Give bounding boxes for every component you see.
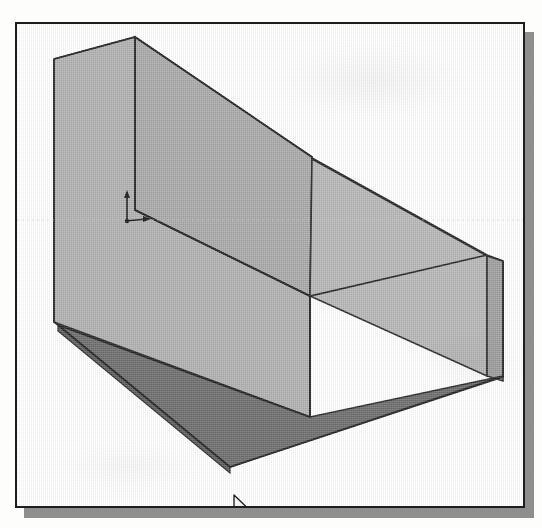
y-axis-arrow-icon <box>124 190 130 198</box>
origin-axis-indicator[interactable] <box>117 188 157 228</box>
mouse-cursor-icon <box>232 494 252 508</box>
face-right-outer-strip <box>487 256 503 381</box>
model-viewport[interactable]: 3D Model Viewport wedge-ramp-solid shade… <box>15 22 525 508</box>
origin-point <box>125 219 129 223</box>
3d-model-canvas[interactable] <box>17 24 523 506</box>
face-right-wall <box>310 159 487 376</box>
x-axis-arrow-icon <box>143 216 151 222</box>
cursor-arrow-shape <box>234 495 249 508</box>
